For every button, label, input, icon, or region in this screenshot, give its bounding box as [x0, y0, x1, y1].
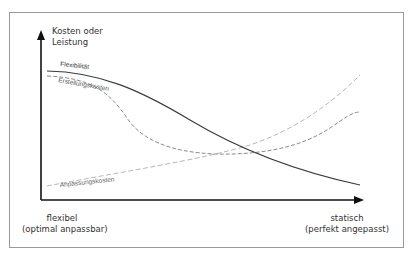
x-axis-left-label: flexibel (optimal anpassbar) — [22, 213, 102, 234]
label-flexibilitaet: Flexibilität — [60, 60, 90, 70]
y-axis — [37, 30, 45, 200]
x-axis-right-line1: statisch — [292, 213, 402, 224]
x-axis-right-line2: (perfekt angepasst) — [292, 224, 402, 235]
x-axis-left-line2: (optimal anpassbar) — [22, 224, 102, 235]
label-anpassungskosten: Anpassungskosten — [59, 175, 115, 189]
y-axis-label-line1: Kosten oder — [52, 26, 103, 37]
y-axis-label: Kosten oder Leistung — [52, 26, 103, 47]
y-axis-label-line2: Leistung — [52, 37, 103, 48]
x-axis-arrow-icon — [354, 196, 364, 204]
x-axis — [41, 196, 364, 204]
curve-anpassungskosten — [47, 75, 360, 186]
y-axis-arrow-icon — [37, 30, 45, 40]
x-axis-right-label: statisch (perfekt angepasst) — [292, 213, 402, 234]
x-axis-left-line1: flexibel — [22, 213, 102, 224]
